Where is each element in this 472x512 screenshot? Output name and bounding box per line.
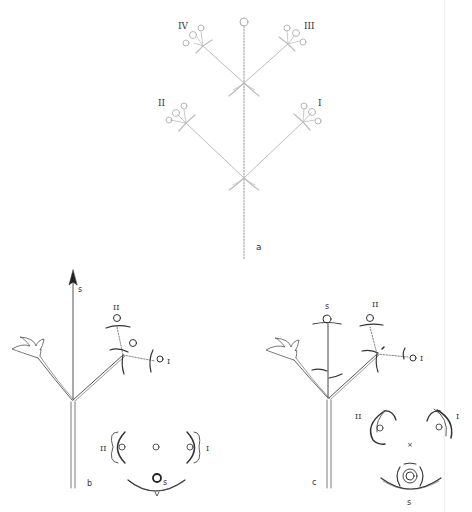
label-iv: IV	[178, 21, 189, 31]
branch-iii	[279, 25, 306, 51]
panel-label-b: b	[87, 479, 92, 488]
center-mark: ×	[407, 441, 413, 449]
panel-label-a: a	[256, 242, 262, 252]
label-ii-c: II	[372, 300, 378, 309]
label-s: s	[78, 285, 82, 294]
figure-canvas: IV III II I a s	[0, 0, 472, 512]
upper-node	[203, 44, 288, 96]
label-s-diagram-c: s	[407, 498, 411, 507]
label-ii-diagram-b: II	[100, 444, 106, 453]
floral-diagram-b: II I s	[100, 432, 209, 496]
label-i-diagram-c: I	[456, 412, 459, 421]
label-s-c: s	[325, 302, 329, 311]
label-ii: II	[158, 98, 166, 108]
panel-b: s II I b	[12, 270, 209, 496]
leaf-icon	[266, 338, 299, 360]
panel-label-c: c	[312, 478, 316, 487]
label-s-diagram-b: s	[163, 478, 167, 487]
branch-i	[294, 103, 321, 130]
label-i-b: I	[167, 357, 170, 366]
terminal-flower-icon	[240, 18, 248, 26]
label-i-diagram-b: I	[206, 444, 209, 453]
label-i-c: I	[420, 354, 423, 363]
label-ii-diagram-c: II	[355, 412, 361, 421]
leaf-icon	[12, 337, 44, 358]
label-ii-b: II	[113, 303, 119, 312]
label-iii: III	[304, 21, 315, 31]
floral-diagram-c: II I × s	[355, 409, 459, 507]
label-i: I	[318, 98, 322, 108]
panel-c: s II I c	[266, 300, 459, 507]
panel-a: IV III II I a	[158, 18, 322, 260]
botanical-figure: IV III II I a s	[0, 0, 472, 512]
